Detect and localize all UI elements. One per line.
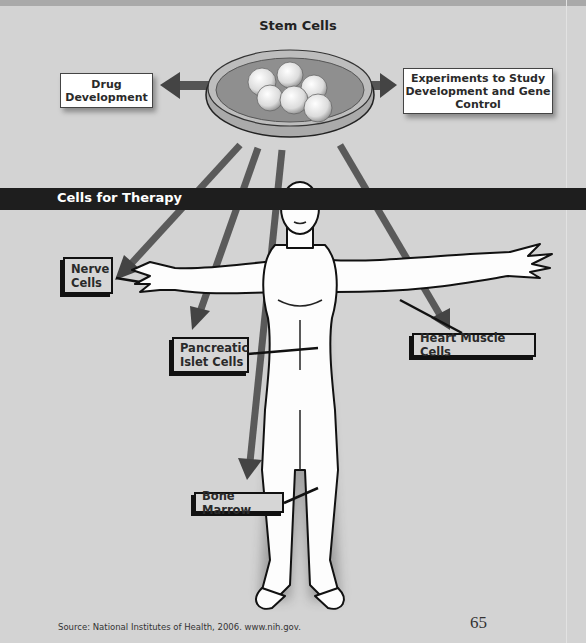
bone-marrow-label: Bone Marrow bbox=[194, 492, 284, 513]
arrowhead-bone bbox=[238, 458, 262, 480]
experiments-line-3: Control bbox=[405, 98, 550, 111]
human-figure bbox=[132, 182, 552, 609]
bone-marrow-text: Bone Marrow bbox=[202, 489, 276, 517]
drug-development-line-2: Development bbox=[65, 91, 147, 104]
arrowhead-pancreatic bbox=[190, 306, 210, 330]
stem-cells-title: Stem Cells bbox=[248, 18, 348, 33]
drug-development-box: Drug Development bbox=[60, 73, 153, 108]
pancreatic-line-2: Islet Cells bbox=[180, 355, 248, 369]
experiments-box: Experiments to Study Development and Gen… bbox=[403, 68, 553, 114]
experiments-line-1: Experiments to Study bbox=[405, 72, 550, 85]
heart-muscle-cells-label: Heart Muscle Cells bbox=[412, 333, 536, 357]
experiments-line-2: Development and Gene bbox=[405, 85, 550, 98]
page-number: 65 bbox=[470, 613, 487, 633]
nerve-cells-label: Nerve Cells bbox=[63, 257, 113, 294]
pancreatic-line-1: Pancreatic bbox=[180, 341, 248, 355]
nerve-cells-line-2: Cells bbox=[71, 276, 109, 290]
arrow-to-drug-development bbox=[160, 72, 212, 99]
source-citation: Source: National Institutes of Health, 2… bbox=[58, 622, 301, 632]
cells-for-therapy-label: Cells for Therapy bbox=[57, 190, 182, 205]
petri-dish bbox=[206, 50, 374, 137]
drug-development-line-1: Drug bbox=[65, 78, 147, 91]
heart-muscle-cells-text: Heart Muscle Cells bbox=[420, 331, 528, 359]
nerve-cells-line-1: Nerve bbox=[71, 262, 109, 276]
pancreatic-islet-cells-label: Pancreatic Islet Cells bbox=[172, 337, 249, 373]
